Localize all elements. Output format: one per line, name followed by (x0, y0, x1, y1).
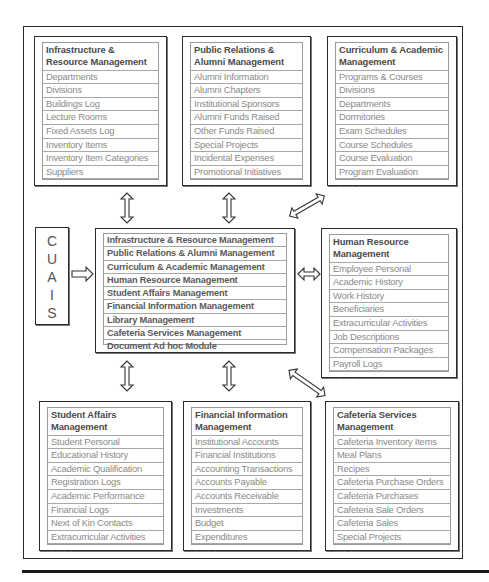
right-arrow-icon (72, 267, 93, 281)
connector-arrows (0, 0, 489, 582)
double-arrow-icon (223, 193, 235, 223)
baseline-divider (22, 570, 489, 573)
double-arrow-icon (298, 268, 320, 280)
double-arrow-icon (121, 193, 133, 223)
double-arrow-icon (121, 361, 133, 391)
double-arrow-icon (286, 365, 329, 400)
double-arrow-icon (287, 191, 328, 221)
double-arrow-icon (223, 361, 235, 391)
